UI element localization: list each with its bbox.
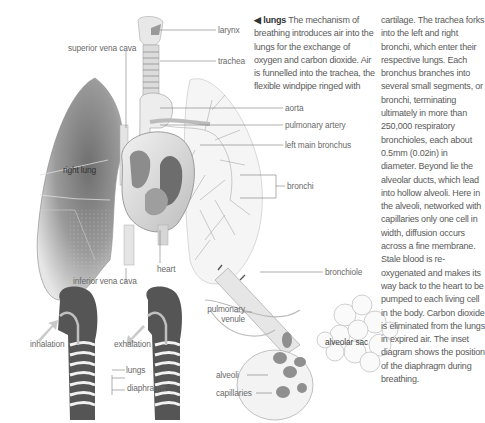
label-pulmonary-artery: pulmonary artery	[285, 120, 346, 130]
description-column-2: cartilage. The trachea forks into the le…	[381, 14, 485, 386]
label-left-main-bronchus: left main bronchus	[285, 140, 351, 150]
label-right-lung: right lung	[63, 165, 96, 175]
heading-lungs: lungs	[263, 15, 286, 25]
label-alveolar-sac: alveolar sac	[325, 337, 368, 347]
label-aorta: aorta	[285, 103, 303, 113]
label-larynx: larynx	[218, 25, 240, 35]
label-exhalation: exhalation	[114, 339, 151, 349]
label-bronchiole: bronchiole	[325, 267, 362, 277]
label-trachea: trachea	[218, 56, 245, 66]
label-inferior-vena-cava: inferior vena cava	[73, 276, 137, 286]
label-alveoli: alveoli	[216, 370, 239, 380]
description-column-1: ◀ lungs The mechanism of breathing intro…	[254, 14, 378, 94]
label-diaphragm: diaphragm	[127, 383, 165, 393]
label-pulmonary-venule: pulmonary venule	[201, 304, 245, 324]
label-heart: heart	[157, 264, 175, 274]
label-bronchi: bronchi	[287, 181, 314, 191]
label-inhalation: inhalation	[30, 339, 65, 349]
label-superior-vena-cava: superior vena cava	[68, 43, 136, 53]
right-lung	[37, 78, 123, 300]
label-lungs: lungs	[126, 365, 145, 375]
inset-breathing	[38, 287, 182, 420]
description-text-1: The mechanism of breathing introduces ai…	[254, 15, 375, 91]
trachea	[138, 16, 163, 97]
left-arrow-icon: ◀	[254, 15, 261, 25]
label-capillaries: capillaries	[216, 388, 252, 398]
